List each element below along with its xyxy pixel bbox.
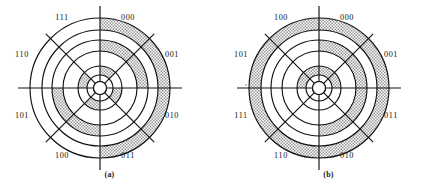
code-label-3: 011 <box>121 151 135 160</box>
caption-a: (a) <box>0 170 219 179</box>
figure-row: 000001010011100101110111 (a) 00000101101… <box>0 0 438 194</box>
disc-a: 000001010011100101110111 <box>0 0 219 172</box>
figure-b: 000001011010110111101100 (b) <box>219 0 438 194</box>
code-label-4: 110 <box>274 151 288 160</box>
encoder-disc-b-svg: 000001011010110111101100 <box>219 0 438 172</box>
code-label-1: 001 <box>165 50 179 59</box>
code-label-7: 100 <box>274 13 288 22</box>
figure-a: 000001010011100101110111 (a) <box>0 0 219 194</box>
disc-b: 000001011010110111101100 <box>219 0 438 172</box>
caption-b: (b) <box>219 170 438 179</box>
encoder-disc-a-svg: 000001010011100101110111 <box>0 0 219 172</box>
code-label-0: 000 <box>121 13 135 22</box>
code-label-2: 010 <box>165 111 179 120</box>
code-label-6: 110 <box>15 50 29 59</box>
code-label-7: 111 <box>55 13 68 22</box>
code-label-5: 101 <box>15 111 29 120</box>
code-label-4: 100 <box>55 151 69 160</box>
code-label-5: 111 <box>234 111 247 120</box>
code-label-1: 001 <box>384 50 398 59</box>
code-label-6: 101 <box>234 50 248 59</box>
code-label-0: 000 <box>340 13 354 22</box>
code-label-2: 011 <box>384 111 398 120</box>
code-label-3: 010 <box>340 151 354 160</box>
